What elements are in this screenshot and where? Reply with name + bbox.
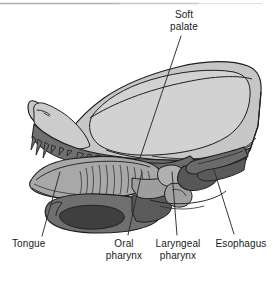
label-oral-pharynx: Oral pharynx bbox=[100, 238, 148, 261]
anatomical-figure: Soft palate Tongue Oral pharynx Laryngea… bbox=[0, 0, 280, 284]
mandible-cavity bbox=[60, 205, 125, 229]
label-laryngeal-pharynx: Laryngeal pharynx bbox=[150, 238, 206, 261]
label-tongue: Tongue bbox=[12, 238, 62, 250]
leader-esophagus bbox=[214, 170, 234, 234]
label-soft-palate: Soft palate bbox=[158, 9, 210, 32]
label-esophagus: Esophagus bbox=[210, 238, 272, 250]
